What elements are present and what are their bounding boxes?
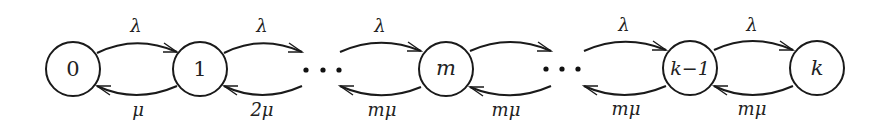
node-label: m bbox=[436, 56, 456, 80]
ellipsis-right bbox=[543, 66, 580, 71]
ellipsis-left bbox=[303, 67, 341, 72]
node-1: 1 bbox=[173, 42, 227, 96]
node-label: 1 bbox=[193, 57, 206, 81]
edge-label-mmu: mμ bbox=[492, 99, 521, 120]
edge-label-2mu: 2μ bbox=[249, 99, 273, 120]
edge-label-lambda: λ bbox=[617, 14, 629, 35]
node-k: k bbox=[790, 41, 844, 95]
birth-death-chain-diagram: 0 1 m k−1 k λ λ λ λ λ μ 2μ mμ mμ mμ mμ bbox=[0, 0, 890, 123]
edge-label-mmu: mμ bbox=[368, 99, 397, 120]
edge-label-lambda: λ bbox=[745, 14, 757, 35]
node-k-1: k−1 bbox=[663, 41, 717, 95]
edge-label-lambda: λ bbox=[373, 15, 385, 36]
edge-label-lambda: λ bbox=[255, 15, 267, 36]
edge-k-1-to-ellipsis bbox=[584, 86, 666, 95]
edge-label-mmu: mμ bbox=[612, 98, 641, 119]
edge-label-mu: μ bbox=[132, 99, 144, 120]
node-label: 0 bbox=[66, 57, 79, 81]
node-label: k−1 bbox=[670, 57, 710, 79]
node-label: k bbox=[811, 56, 824, 80]
node-0: 0 bbox=[46, 42, 100, 96]
edge-label-lambda: λ bbox=[129, 15, 141, 36]
node-m: m bbox=[419, 42, 473, 96]
edge-label-mmu: mμ bbox=[738, 98, 767, 119]
